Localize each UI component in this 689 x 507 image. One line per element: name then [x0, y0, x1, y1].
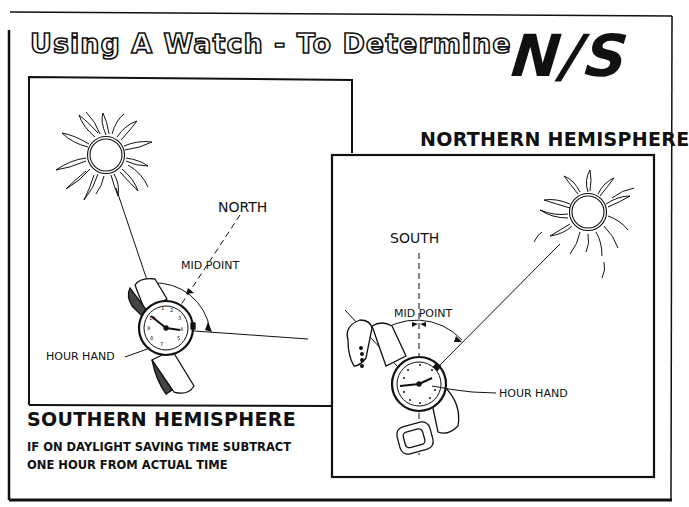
svg-text:1: 1	[161, 305, 164, 311]
wristwatch-left: 1098 754 321	[128, 279, 195, 394]
sun-line-right	[437, 244, 560, 368]
south-label: SOUTH	[390, 230, 439, 246]
svg-text:4: 4	[180, 326, 183, 332]
page-title: Using A Watch - To Determine	[30, 28, 512, 59]
north-label: NORTH	[218, 199, 267, 215]
northern-hemisphere-heading: NORTHERN HEMISPHERE	[420, 128, 689, 150]
southern-hemisphere-heading: SOUTHERN HEMISPHERE	[27, 408, 296, 430]
svg-text:7: 7	[160, 341, 163, 347]
title-emphasis-ns: N/S	[508, 22, 633, 90]
svg-text:8: 8	[150, 335, 153, 341]
arc-arrow-icon	[420, 322, 426, 327]
svg-text:3: 3	[178, 315, 181, 321]
hour-hand-line-left	[180, 330, 308, 339]
midpoint-label-right: MID POINT	[394, 307, 452, 320]
sun-icon-right	[534, 170, 634, 278]
svg-text:10: 10	[149, 315, 155, 321]
svg-text:2: 2	[170, 307, 173, 313]
note-line-2: ONE HOUR FROM ACTUAL TIME	[27, 456, 291, 474]
sun-line-left	[116, 188, 148, 283]
svg-text:9: 9	[147, 325, 150, 331]
arc-arrow-icon	[186, 288, 194, 294]
arc-arrow-icon	[205, 322, 212, 332]
midpoint-label-left: MID POINT	[181, 259, 239, 272]
northern-panel-frame	[332, 155, 654, 477]
sun-icon-left	[56, 112, 152, 200]
hour-hand-label-right: HOUR HAND	[499, 387, 568, 400]
hour-hand-pointer-left	[125, 348, 150, 357]
svg-text:5: 5	[177, 335, 180, 341]
arc-arrow-icon	[412, 322, 418, 327]
hour-hand-label-left: HOUR HAND	[46, 350, 115, 363]
daylight-saving-note: IF ON DAYLIGHT SAVING TIME SUBTRACT ONE …	[27, 438, 291, 474]
note-line-1: IF ON DAYLIGHT SAVING TIME SUBTRACT	[27, 438, 291, 456]
